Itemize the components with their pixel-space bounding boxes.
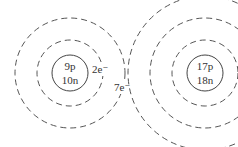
fluorine-neutrons: 10n: [62, 74, 79, 86]
chlorine-shell-2: [150, 18, 238, 128]
chlorine-neutrons: 18n: [197, 74, 214, 86]
bohr-diagrams: 9p 10n 2e⁻ 7e⁻ 17p 18n: [0, 0, 238, 147]
chlorine-shell-3: [128, 0, 238, 147]
chlorine-atom: 17p 18n: [128, 0, 238, 147]
fluorine-protons: 9p: [65, 60, 77, 72]
chlorine-protons: 17p: [197, 60, 214, 72]
fluorine-shell-2-label: 7e⁻: [114, 81, 130, 93]
fluorine-shell-1-label: 2e⁻: [92, 63, 108, 75]
chlorine-shell-1: [172, 40, 238, 106]
fluorine-atom: 9p 10n 2e⁻ 7e⁻: [15, 18, 136, 128]
